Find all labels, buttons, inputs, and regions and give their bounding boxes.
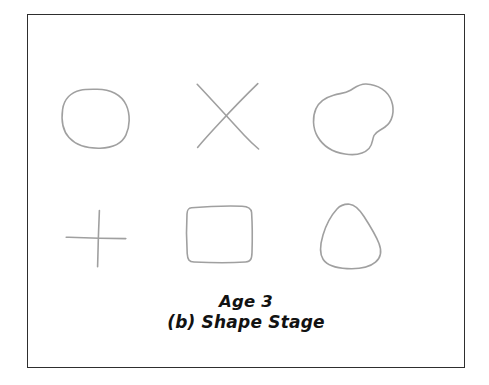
caption-age-label: Age 3 [27,292,465,312]
figure-caption: Age 3 (b) Shape Stage [27,292,465,333]
figure-root: Age 3 (b) Shape Stage [0,0,489,385]
caption-stage-label: (b) Shape Stage [27,312,465,333]
